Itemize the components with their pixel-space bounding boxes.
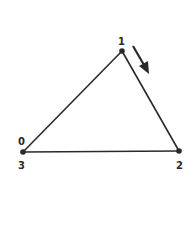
vertex-1 (119, 48, 125, 54)
edge-2-3 (23, 151, 179, 152)
direction-arrow-icon (133, 46, 149, 74)
edge-1-2 (122, 51, 179, 151)
label-vertex-2: 2 (176, 160, 183, 171)
label-vertex-0: 0 (18, 136, 25, 147)
triangle-diagram: 1 0 3 2 (0, 0, 196, 245)
label-vertex-3: 3 (18, 160, 25, 171)
edge-0-1 (23, 51, 122, 152)
label-vertex-1: 1 (118, 36, 125, 47)
vertex-2 (176, 148, 182, 154)
vertex-0-3 (20, 149, 26, 155)
